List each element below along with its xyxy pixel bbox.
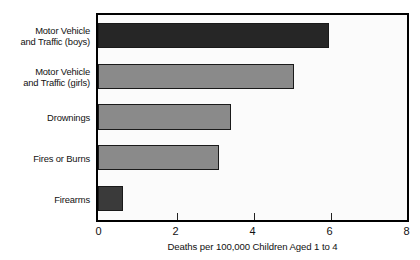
x-tick-label: 4 [238, 225, 268, 237]
category-label: Fires or Burns [0, 153, 90, 164]
bar [98, 104, 231, 129]
x-tick-mark [177, 213, 179, 220]
x-tick-label: 6 [315, 225, 345, 237]
category-label: Firearms [0, 194, 90, 205]
category-label: Motor Vehicle and Traffic (boys) [0, 25, 90, 47]
plot-frame [96, 13, 409, 222]
bar [98, 64, 294, 89]
x-tick-mark [254, 213, 256, 220]
category-axis-labels: Motor Vehicle and Traffic (boys)Motor Ve… [0, 13, 90, 222]
x-tick-mark [331, 213, 333, 220]
plot-area [98, 15, 407, 220]
bar [98, 23, 329, 48]
bar [98, 145, 219, 170]
x-tick-label: 0 [84, 225, 114, 237]
x-tick-label: 2 [161, 225, 191, 237]
x-axis-title: Deaths per 100,000 Children Aged 1 to 4 [96, 241, 409, 252]
category-label: Motor Vehicle and Traffic (girls) [0, 66, 90, 88]
bar [98, 186, 123, 211]
x-tick-label: 8 [392, 225, 420, 237]
bar-chart-figure: Motor Vehicle and Traffic (boys)Motor Ve… [0, 0, 420, 260]
category-label: Drownings [0, 112, 90, 123]
